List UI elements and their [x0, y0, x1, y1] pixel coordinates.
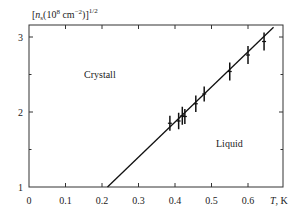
plot-frame: [29, 25, 283, 187]
x-tick-label: 0: [27, 195, 32, 206]
y-tick-label: 2: [18, 107, 23, 118]
y-tick-label: 3: [18, 32, 23, 43]
x-tick-label: 0.2: [96, 195, 109, 206]
axis-ticks: [29, 25, 283, 187]
data-point: [177, 113, 181, 130]
data-point: [246, 46, 250, 64]
data-point: [228, 63, 232, 81]
data-point: [194, 96, 198, 113]
crystal-region-label: Crystall: [84, 69, 116, 80]
x-tick-label: 0.4: [169, 195, 182, 206]
x-tick-label: 0.3: [132, 195, 145, 206]
x-tick-label: 0.1: [59, 195, 72, 206]
y-tick-labels: 123: [18, 32, 23, 193]
data-point: [202, 87, 206, 102]
x-tick-label: 0.5: [205, 195, 218, 206]
data-point: [180, 107, 184, 125]
liquid-region-label: Liquid: [216, 138, 243, 149]
chart: 00.10.20.30.40.50.6 123 [ns(108 cm−2)]1/…: [0, 0, 307, 211]
x-tick-label: 0.6: [242, 195, 255, 206]
x-tick-labels: 00.10.20.30.40.50.6: [27, 195, 255, 206]
x-axis-label: T, K: [270, 195, 289, 206]
y-tick-label: 1: [18, 182, 23, 193]
y-axis-label: [ns(108 cm−2)]1/2: [32, 7, 98, 22]
